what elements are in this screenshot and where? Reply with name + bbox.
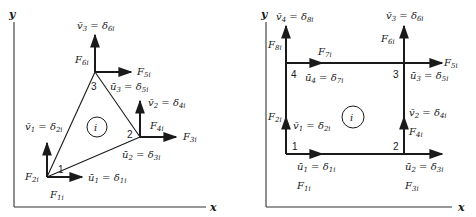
right-node-2-label: 2: [393, 141, 399, 152]
right-force-F2: F2i: [267, 111, 282, 124]
left-axes: y x: [8, 8, 217, 214]
left-force-F4: F4i: [149, 120, 164, 133]
right-panel-rectangle-element: y x i 1 2 3 4 F1i F2i F3i: [260, 8, 465, 214]
left-disp-v2: v̄2 = δ4i: [148, 97, 186, 110]
right-force-F1: F1i: [296, 180, 311, 193]
left-y-axis-label: y: [8, 8, 17, 21]
left-node-2-label: 2: [127, 129, 133, 140]
right-force-F6: F6i: [380, 33, 395, 46]
right-x-axis-label: x: [457, 201, 465, 214]
right-node-1-label: 1: [292, 141, 298, 152]
right-force-F3: F3i: [404, 180, 419, 193]
left-x-axis-label: x: [209, 201, 217, 214]
left-disp-u2: ū2 = δ3i: [122, 149, 160, 162]
right-disp-u2: ū2 = δ3i: [405, 161, 443, 174]
right-force-F7: F7i: [317, 46, 332, 59]
right-disp-v1: v̄1 = δ2i: [293, 120, 331, 133]
right-node-4-label: 4: [291, 69, 297, 80]
right-element-label: i: [350, 112, 353, 123]
right-disp-u3: ū3 = δ5i: [410, 70, 448, 83]
left-node-1-label: 1: [58, 164, 64, 175]
left-panel-triangle-element: y x i 1 2 3 F1i F2i F3i F4i F5i: [8, 8, 217, 214]
left-disp-u1: ū1 = δ1i: [88, 172, 126, 185]
left-force-F2: F2i: [24, 171, 39, 184]
right-disp-v3: v̄3 = δ6i: [386, 10, 424, 23]
left-disp-u3: ū3 = δ5i: [110, 81, 148, 94]
left-force-F5: F5i: [136, 66, 151, 79]
right-element-id-marker: i: [342, 106, 364, 128]
right-disp-u1: ū1 = δ1i: [297, 161, 335, 174]
left-disp-v3: v̄3 = δ6i: [77, 20, 115, 33]
right-disp-v2: v̄2 = δ4i: [409, 107, 447, 120]
left-disp-v1: v̄1 = δ2i: [25, 121, 63, 134]
right-node-3-label: 3: [393, 69, 399, 80]
left-element-label: i: [94, 122, 97, 133]
finite-element-diagram: y x i 1 2 3 F1i F2i F3i F4i F5i: [0, 0, 476, 217]
right-y-axis-label: y: [260, 8, 269, 21]
right-force-F4: F4i: [408, 126, 423, 139]
rectangle-edges: [286, 63, 404, 154]
right-force-F5: F5i: [443, 57, 458, 70]
right-disp-v4: v̄4 = δ8i: [276, 11, 314, 24]
figure-canvas: y x i 1 2 3 F1i F2i F3i F4i F5i: [0, 0, 476, 217]
right-force-F8: F8i: [267, 39, 282, 52]
left-force-F3: F3i: [182, 131, 197, 144]
left-node-3-label: 3: [91, 81, 97, 92]
right-disp-u4: ū4 = δ7i: [305, 72, 343, 85]
left-force-F6: F6i: [74, 54, 89, 67]
left-element-id-marker: i: [87, 117, 107, 137]
left-force-F1: F1i: [49, 189, 64, 202]
